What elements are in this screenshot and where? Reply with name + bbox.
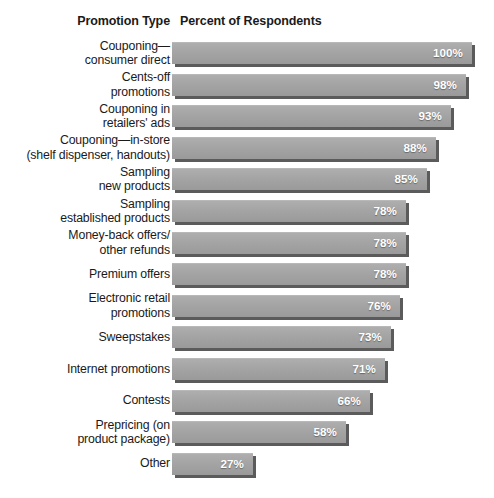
- category-label-line: established products: [0, 211, 170, 226]
- category-label: Prepricing (onproduct package): [0, 418, 170, 447]
- bar-value-label: 76%: [367, 295, 391, 317]
- bar: 78%: [172, 200, 406, 222]
- bar-value-label: 100%: [433, 42, 463, 64]
- bar: 98%: [172, 74, 466, 96]
- bar-fill: [172, 168, 427, 190]
- bar-row: Internet promotions71%: [0, 358, 494, 380]
- bar: 73%: [172, 326, 391, 348]
- bar-row: Cents-offpromotions98%: [0, 74, 494, 96]
- category-label-line: Other: [0, 456, 170, 471]
- bar: 78%: [172, 263, 406, 285]
- bar-row: Other27%: [0, 453, 494, 475]
- bar-fill: [172, 105, 451, 127]
- bar-row: Electronic retailpromotions76%: [0, 295, 494, 317]
- bar-row: Samplingnew products85%: [0, 168, 494, 190]
- bar-row: Samplingestablished products78%: [0, 200, 494, 222]
- bar-fill: [172, 200, 406, 222]
- bar-value-label: 58%: [313, 421, 337, 443]
- category-label-line: Couponing—: [0, 39, 170, 54]
- bar-value-label: 85%: [394, 168, 418, 190]
- category-label-line: Couponing—in-store: [0, 133, 170, 148]
- bar: 76%: [172, 295, 400, 317]
- category-label: Couponing—consumer direct: [0, 39, 170, 68]
- category-label-line: promotions: [0, 306, 170, 321]
- bar-fill: [172, 295, 400, 317]
- category-label-line: Couponing in: [0, 102, 170, 117]
- bar-value-label: 66%: [337, 390, 361, 412]
- category-label-line: Sweepstakes: [0, 330, 170, 345]
- category-label: Sweepstakes: [0, 330, 170, 345]
- bar-fill: [172, 42, 472, 64]
- category-label-line: Internet promotions: [0, 362, 170, 377]
- category-label-line: Electronic retail: [0, 291, 170, 306]
- category-label-line: Sampling: [0, 197, 170, 212]
- bar-value-label: 71%: [352, 358, 376, 380]
- bar-fill: [172, 137, 436, 159]
- category-label-line: Premium offers: [0, 267, 170, 282]
- bar: 88%: [172, 137, 436, 159]
- bar: 93%: [172, 105, 451, 127]
- category-label: Other: [0, 456, 170, 471]
- category-label-line: new products: [0, 179, 170, 194]
- bar: 100%: [172, 42, 472, 64]
- category-label-line: Contests: [0, 393, 170, 408]
- bar-fill: [172, 74, 466, 96]
- category-label: Electronic retailpromotions: [0, 291, 170, 320]
- bar-value-label: 78%: [373, 232, 397, 254]
- bar: 58%: [172, 421, 346, 443]
- bar-value-label: 78%: [373, 263, 397, 285]
- bar-row: Couponing inretailers' ads93%: [0, 105, 494, 127]
- bar-value-label: 73%: [358, 326, 382, 348]
- bar: 78%: [172, 232, 406, 254]
- bar-row: Money-back offers/other refunds78%: [0, 232, 494, 254]
- bar-value-label: 27%: [220, 453, 244, 475]
- category-label: Samplingnew products: [0, 165, 170, 194]
- bar-fill: [172, 232, 406, 254]
- category-label-line: Prepricing (on: [0, 418, 170, 433]
- bar-row: Contests66%: [0, 390, 494, 412]
- bar-chart: Promotion Type Percent of Respondents Co…: [0, 0, 494, 498]
- bar-row: Prepricing (onproduct package)58%: [0, 421, 494, 443]
- category-label: Samplingestablished products: [0, 197, 170, 226]
- bar: 85%: [172, 168, 427, 190]
- category-label: Internet promotions: [0, 362, 170, 377]
- category-label: Money-back offers/other refunds: [0, 228, 170, 257]
- bar: 66%: [172, 390, 370, 412]
- bar-row: Sweepstakes73%: [0, 326, 494, 348]
- bar-row: Couponing—consumer direct100%: [0, 42, 494, 64]
- bar-row: Premium offers78%: [0, 263, 494, 285]
- category-label-line: promotions: [0, 85, 170, 100]
- category-label-line: product package): [0, 432, 170, 447]
- category-label: Contests: [0, 393, 170, 408]
- bar-value-label: 98%: [433, 74, 457, 96]
- bar: 71%: [172, 358, 385, 380]
- category-label-line: retailers' ads: [0, 116, 170, 131]
- category-label: Couponing inretailers' ads: [0, 102, 170, 131]
- category-label: Cents-offpromotions: [0, 70, 170, 99]
- bar-value-label: 78%: [373, 200, 397, 222]
- category-label-line: Sampling: [0, 165, 170, 180]
- bar-fill: [172, 263, 406, 285]
- category-label-line: other refunds: [0, 243, 170, 258]
- bar-value-label: 93%: [418, 105, 442, 127]
- bar-value-label: 88%: [403, 137, 427, 159]
- bar-row: Couponing—in-store(shelf dispenser, hand…: [0, 137, 494, 159]
- category-label-line: (shelf dispenser, handouts): [0, 148, 170, 163]
- category-label: Couponing—in-store(shelf dispenser, hand…: [0, 133, 170, 162]
- category-label: Premium offers: [0, 267, 170, 282]
- category-label-line: Cents-off: [0, 70, 170, 85]
- bar: 27%: [172, 453, 253, 475]
- plot-area: Couponing—consumer direct100%Cents-offpr…: [0, 0, 494, 498]
- category-label-line: consumer direct: [0, 53, 170, 68]
- category-label-line: Money-back offers/: [0, 228, 170, 243]
